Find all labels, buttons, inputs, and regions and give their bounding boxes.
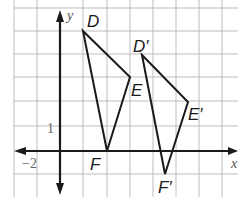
y-tick-label: 1: [47, 121, 54, 136]
vertex-label-e: E: [131, 81, 143, 100]
vertex-label-e-prime: E′: [188, 105, 203, 124]
coordinate-plane: y x −2 1 D E F D′ E′ F′: [0, 0, 238, 197]
grid-lines: [14, 0, 238, 197]
x-axis-right-arrow-icon: [228, 147, 238, 155]
vertex-label-f: F: [90, 155, 102, 174]
x-axis-label: x: [230, 156, 238, 171]
vertex-label-f-prime: F′: [158, 178, 172, 197]
y-axis-down-arrow-icon: [56, 183, 64, 195]
x-tick-label: −2: [22, 156, 37, 171]
y-axis-label: y: [65, 8, 74, 23]
y-axis-up-arrow-icon: [56, 10, 64, 22]
vertex-label-d-prime: D′: [133, 37, 149, 56]
x-axis-left-arrow-icon: [14, 147, 26, 155]
triangle-def-prime: [142, 55, 188, 174]
vertex-label-d: D: [87, 12, 99, 31]
